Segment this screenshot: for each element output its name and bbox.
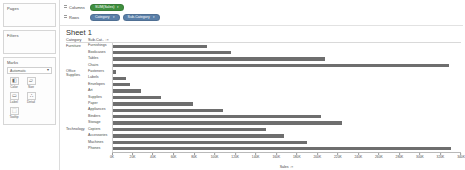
left-cards-panel: Pages Filters Marks Automatic ▾ ◧ Color … [0,0,60,170]
x-axis-tick: 180K [293,153,301,159]
rows-label-text: Rows [69,15,79,20]
x-axis-tick-label: 20K [130,155,136,159]
chevron-down-icon: ▾ [47,69,49,73]
x-axis-tick-label: 160K [272,155,280,159]
x-axis-tick-label: 120K [231,155,239,159]
x-axis-tick-label: 60K [171,155,177,159]
x-axis-tick-label: 140K [252,155,260,159]
x-axis-tick-label: 320K [437,155,445,159]
bar-mark[interactable] [113,96,161,99]
grip-icon [64,5,67,9]
bar-mark[interactable] [113,89,141,92]
x-axis-tick: 140K [252,153,260,159]
header-sub-category[interactable]: Sub-Cat.. ↓≡ [88,38,112,42]
x-axis-tick: 100K [211,153,219,159]
x-axis-tick: 80K [191,153,197,159]
bar-mark[interactable] [113,134,284,137]
bar-mark[interactable] [113,77,126,80]
bar-mark[interactable] [113,64,449,67]
chevron-down-icon: ▾ [153,15,155,19]
grip-icon [64,15,67,19]
marks-buttons-grid: ◧ Color ▱ Size ▭ Label ∴ Detail ⬚ Tool [4,76,55,121]
category-label-column: FurnitureOffice SuppliesTechnology [66,43,88,152]
x-axis-tick-label: 300K [416,155,424,159]
bar-mark[interactable] [113,83,130,86]
detail-icon: ∴ [27,92,36,100]
bar-mark[interactable] [113,109,223,112]
bar-mark[interactable] [113,141,307,144]
pill-sum-sales-text: SUM(Sales) [95,5,114,9]
filters-card[interactable]: Filters [3,30,56,54]
marks-label-button[interactable]: ▭ Label [6,91,22,105]
marks-size-label: Size [28,86,34,89]
pill-sub-category[interactable]: Sub-Category ▾ [123,14,160,21]
bar-mark[interactable] [113,57,325,60]
x-axis-tick-label: 40K [150,155,156,159]
marks-tooltip-button[interactable]: ⬚ Tooltip [6,106,22,120]
sort-descending-icon[interactable]: ↓≡ [105,38,109,42]
columns-shelf[interactable]: Columns SUM(Sales) ▾ [64,3,459,11]
sub-category-label[interactable]: Phones [88,146,112,152]
x-axis-tick: 160K [272,153,280,159]
sub-category-label-column: FurnishingsBookcasesTablesChairsFastener… [88,43,112,152]
x-axis-tick: 240K [354,153,362,159]
marks-size-button[interactable]: ▱ Size [23,76,39,90]
sort-descending-icon[interactable]: ↓≡ [290,165,294,169]
mark-type-value: Automatic [10,69,26,73]
x-axis-tick: 280K [396,153,404,159]
x-axis-tick-label: 0K [110,155,114,159]
category-label[interactable]: Office Supplies [66,70,88,77]
columns-label-text: Columns [69,5,85,10]
worksheet-area: Columns SUM(Sales) ▾ Rows Category ▾ Sub… [60,0,463,170]
bar-mark[interactable] [113,51,231,54]
marks-card-title: Marks [4,58,55,66]
category-label[interactable]: Technology [66,128,85,132]
bar-mark[interactable] [113,121,342,124]
bar-mark[interactable] [113,45,207,48]
x-axis-tick: 120K [231,153,239,159]
x-axis-tick: 260K [375,153,383,159]
pill-category-text: Category [95,15,110,19]
bar-mark[interactable] [113,70,116,73]
bar-mark[interactable] [113,147,451,150]
x-axis-tick-label: 260K [375,155,383,159]
bar-mark[interactable] [113,102,193,105]
x-axis-tick-label: 280K [396,155,404,159]
bar-mark[interactable] [113,115,321,118]
marks-detail-label: Detail [27,101,35,104]
x-axis-tick: 40K [150,153,156,159]
marks-card[interactable]: Marks Automatic ▾ ◧ Color ▱ Size ▭ Label [3,57,56,125]
label-icon: ▭ [10,92,19,100]
x-axis-tick: 0K [110,153,114,159]
marks-detail-button[interactable]: ∴ Detail [23,91,39,105]
category-label[interactable]: Furniture [66,45,81,49]
bar-mark[interactable] [113,128,266,131]
header-sub-category-text: Sub-Cat.. [88,38,104,42]
x-axis-title[interactable]: Sales ↓≡ [112,164,461,170]
pill-category[interactable]: Category ▾ [90,14,120,21]
page-title: Sheet 1 [60,26,463,38]
shelves-region: Columns SUM(Sales) ▾ Rows Category ▾ Sub… [60,0,463,26]
bars-column [112,43,461,152]
pages-card[interactable]: Pages [3,3,56,27]
marks-tooltip-label: Tooltip [9,116,18,119]
rows-shelf[interactable]: Rows Category ▾ Sub-Category ▾ [64,13,459,21]
pill-sum-sales[interactable]: SUM(Sales) ▾ [90,4,124,11]
header-category[interactable]: Category [66,38,88,42]
x-axis-title-text: Sales [280,165,289,169]
color-palette-icon: ◧ [10,77,19,85]
mark-type-dropdown[interactable]: Automatic ▾ [7,67,52,74]
x-axis-tick-label: 80K [191,155,197,159]
chevron-down-icon: ▾ [113,15,115,19]
columns-shelf-label: Columns [64,5,90,10]
filters-card-title: Filters [4,31,55,40]
x-axis[interactable]: 0K20K40K60K80K100K120K140K160K180K200K22… [112,152,461,164]
x-axis-tick: 300K [416,153,424,159]
x-axis-tick-label: 200K [313,155,321,159]
x-axis-tick-label: 180K [293,155,301,159]
plot-region: FurnitureOffice SuppliesTechnology Furni… [66,43,461,152]
marks-color-button[interactable]: ◧ Color [6,76,22,90]
bar-row [113,146,461,152]
tooltip-icon: ⬚ [10,107,19,115]
x-axis-tick: 200K [313,153,321,159]
